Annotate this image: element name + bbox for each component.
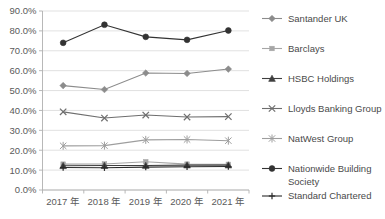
data-point-marker	[102, 22, 108, 28]
data-point-marker	[225, 66, 232, 73]
legend-item[interactable]: Nationwide BuildingSociety	[262, 163, 371, 188]
series	[60, 135, 232, 149]
y-tick-label: 60.0%	[10, 65, 37, 76]
legend-label: Society	[288, 176, 319, 187]
legend-label: Nationwide Building	[288, 163, 371, 174]
y-tick-label: 70.0%	[10, 45, 37, 56]
y-tick-label: 90.0%	[10, 5, 37, 16]
x-tick-label: 2017 年	[46, 196, 80, 207]
x-tick-label: 2020 年	[170, 196, 204, 207]
legend-label: Standard Chartered	[288, 190, 371, 201]
y-tick-label: 50.0%	[10, 85, 37, 96]
legend-item[interactable]: Santander UK	[262, 13, 348, 24]
chart-svg: 0.0%10.0%20.0%30.0%40.0%50.0%60.0%70.0%8…	[0, 0, 385, 219]
data-point-marker	[225, 28, 231, 34]
data-point-marker	[60, 82, 67, 89]
data-point-marker	[184, 37, 190, 43]
legend-label: Lloyds Banking Group	[288, 103, 381, 114]
data-point-marker	[101, 86, 108, 93]
legend-label: HSBC Holdings	[288, 73, 354, 84]
data-point-marker	[60, 40, 66, 46]
x-tick-label: 2021 年	[211, 196, 245, 207]
line-chart: 0.0%10.0%20.0%30.0%40.0%50.0%60.0%70.0%8…	[0, 0, 385, 219]
series	[60, 66, 232, 93]
legend-label: Barclays	[288, 43, 325, 54]
x-tick-label: 2018 年	[88, 196, 122, 207]
legend-item[interactable]: Barclays	[262, 43, 325, 54]
data-point-marker	[269, 193, 275, 199]
y-tick-label: 20.0%	[10, 145, 37, 156]
data-point-marker	[184, 70, 191, 77]
data-point-marker	[269, 15, 276, 22]
y-tick-label: 30.0%	[10, 125, 37, 136]
x-axis-tick-labels: 2017 年2018 年2019 年2020 年2021 年	[46, 196, 245, 207]
data-point-marker	[269, 166, 275, 172]
series-lines	[60, 22, 232, 171]
data-point-marker	[270, 46, 275, 51]
legend-label: Santander UK	[288, 13, 348, 24]
legend-label: NatWest Group	[288, 133, 353, 144]
x-tick-label: 2019 年	[129, 196, 163, 207]
legend-item[interactable]: Lloyds Banking Group	[262, 103, 381, 114]
y-tick-label: 10.0%	[10, 165, 37, 176]
y-tick-label: 80.0%	[10, 25, 37, 36]
data-point-marker	[143, 34, 149, 40]
series	[60, 22, 231, 46]
chart-legend: Santander UKBarclaysHSBC HoldingsLloyds …	[262, 13, 381, 202]
legend-item[interactable]: Standard Chartered	[262, 190, 371, 201]
legend-item[interactable]: NatWest Group	[262, 133, 353, 144]
y-tick-label: 40.0%	[10, 105, 37, 116]
legend-item[interactable]: HSBC Holdings	[262, 73, 354, 84]
y-tick-label: 0.0%	[15, 184, 37, 195]
y-axis-tick-labels: 0.0%10.0%20.0%30.0%40.0%50.0%60.0%70.0%8…	[10, 5, 37, 195]
data-point-marker	[143, 164, 149, 170]
